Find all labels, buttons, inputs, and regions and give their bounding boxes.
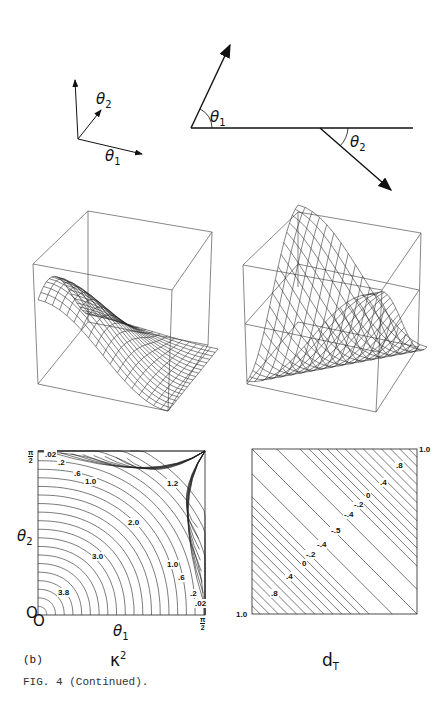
panel-label: (b) <box>23 654 43 666</box>
contour-label: -.2 <box>305 550 316 559</box>
contour-label: .2 <box>189 589 198 598</box>
dT-surface <box>243 212 421 412</box>
dT-corner-top-label: 1.0 <box>418 445 431 454</box>
figure-caption: FIG. 4 (Continued). <box>23 676 148 688</box>
contour-label: .02 <box>194 599 207 608</box>
x-axis-max-label: π2 <box>200 616 205 631</box>
axes-sketch-theta1-label: θ1 <box>105 147 121 167</box>
contour-label: 1.0 <box>166 560 179 569</box>
contour-label: .02 <box>44 450 57 459</box>
contour-label: 3.8 <box>57 588 70 597</box>
contour-label: .4 <box>379 478 388 487</box>
contour-label: -.4 <box>343 510 354 519</box>
contour-label: 0 <box>301 559 307 568</box>
y-axis-max-label: π2 <box>28 449 33 464</box>
contour-label: -.5 <box>330 526 341 535</box>
contour-label: 0 <box>365 491 371 500</box>
contour-label: 1.2 <box>166 479 179 488</box>
angle-sketch-theta1-label: θ1 <box>210 108 226 128</box>
contour-label: 3.0 <box>91 552 104 561</box>
dT-title: dT <box>322 650 339 672</box>
contour-label: .6 <box>177 573 186 582</box>
x-axis-label-theta1: θ1 <box>113 622 129 642</box>
kappa-squared-title: κ2 <box>110 650 126 670</box>
contour-label: .6 <box>73 469 82 478</box>
contour-label: 1.0 <box>84 477 97 486</box>
axes-sketch-theta2-label: θ2 <box>96 90 112 110</box>
angle-sketch-theta2-label: θ2 <box>350 133 366 153</box>
y-axis-label-theta2: θ2 <box>17 527 33 547</box>
kappa-squared-surface <box>33 211 212 411</box>
contour-label: -.2 <box>353 500 364 509</box>
contour-label: -.4 <box>316 540 327 549</box>
contour-label: .4 <box>285 572 294 581</box>
contour-label: .2 <box>57 458 66 467</box>
contour-label: .8 <box>395 461 404 470</box>
dT-corner-bottom-label: 1.0 <box>235 610 248 619</box>
contour-label: 2.0 <box>127 518 140 527</box>
contour-label: .8 <box>270 589 279 598</box>
origin-label-x: O <box>33 612 45 630</box>
